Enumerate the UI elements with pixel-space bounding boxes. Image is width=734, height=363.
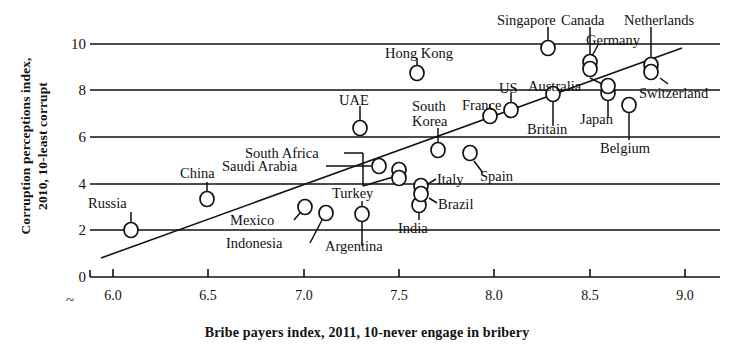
point-label-switzerland: Switzerland (639, 86, 708, 101)
plot-area (0, 0, 734, 363)
marker-southkorea (431, 143, 445, 158)
point-label-brazil: Brazil (438, 197, 473, 212)
marker-belgium (622, 98, 636, 113)
marker-indonesia (319, 206, 333, 221)
marker-hongkong (410, 66, 424, 81)
point-label-indonesia: Indonesia (226, 236, 282, 251)
point-label-us: US (499, 81, 518, 96)
leader-indonesia (310, 220, 322, 243)
point-label-italy: Italy (437, 172, 464, 187)
point-label-argentina: Argentina (325, 239, 383, 254)
marker-russia (124, 223, 138, 238)
point-label-japan: Japan (580, 112, 613, 127)
gridlines (90, 44, 720, 230)
trend-line (101, 48, 682, 258)
leader-mexico (294, 213, 300, 220)
marker-turkey (355, 207, 369, 222)
point-label-canada: Canada (561, 13, 604, 28)
point-label-southkorea-line1: South (412, 98, 446, 114)
point-label-singapore: Singapore (497, 13, 556, 28)
point-label-mexico: Mexico (230, 213, 274, 228)
scatter-chart: Corruption perceptions index, 2010, 10-l… (0, 0, 734, 363)
point-label-turkey: Turkey (332, 186, 373, 201)
marker-switzerland (644, 65, 658, 80)
marker-us (504, 103, 518, 118)
marker-stack-a (392, 171, 406, 186)
point-label-netherlands: Netherlands (624, 13, 694, 28)
point-label-china: China (180, 166, 215, 181)
marker-saudi (372, 159, 386, 174)
point-label-hongkong: Hong Kong (385, 46, 453, 61)
marker-china (200, 192, 214, 207)
point-label-southafrica: South Africa (245, 146, 319, 161)
leader-italy (428, 179, 436, 184)
marker-brazil (414, 187, 428, 202)
point-label-britain: Britain (527, 122, 567, 137)
point-label-spain: Spain (480, 169, 513, 184)
point-label-russia: Russia (88, 196, 127, 211)
point-label-belgium: Belgium (600, 141, 650, 156)
marker-singapore (541, 41, 555, 56)
point-label-india: India (398, 221, 428, 236)
point-label-saudi: Saudi Arabia (222, 159, 297, 174)
point-label-germany: Germany (586, 33, 640, 48)
point-label-france: France (462, 98, 501, 113)
marker-mexico (298, 200, 312, 215)
marker-germany (583, 62, 597, 77)
marker-spain (463, 146, 477, 161)
marker-uae (353, 121, 367, 136)
point-label-uae: UAE (339, 93, 369, 108)
leader-switzerland (660, 78, 668, 84)
point-label-southkorea-line2: Korea (412, 113, 447, 129)
point-label-australia: Australia (528, 79, 581, 94)
marker-australia (601, 79, 615, 94)
x-axis (90, 269, 720, 277)
point-label-southkorea: South Korea (412, 99, 468, 129)
leader-brazil (429, 198, 437, 203)
